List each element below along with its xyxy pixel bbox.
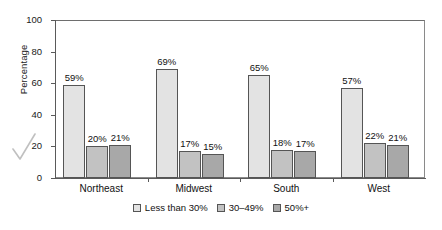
bar-value-label: 65% [242, 63, 276, 73]
bar-value-label: 15% [196, 142, 230, 152]
legend-label: Less than 30% [145, 203, 208, 213]
bar-value-label: 21% [103, 133, 137, 143]
y-axis-tick-label: 40 [0, 110, 42, 120]
chart-legend: Less than 30%30–49%50%+ [0, 203, 442, 213]
bar [179, 151, 201, 178]
bar [109, 145, 131, 178]
bar-value-label: 59% [57, 73, 91, 83]
bar [202, 154, 224, 178]
legend-item: 30–49% [217, 203, 264, 213]
bar [271, 150, 293, 178]
legend-label: 50%+ [285, 203, 310, 213]
bar-value-label: 57% [335, 76, 369, 86]
y-axis-line [55, 20, 56, 179]
y-axis-tick-label: 60 [0, 78, 42, 88]
x-axis-tick-mark [148, 178, 149, 182]
legend-swatch [217, 204, 225, 212]
y-axis-tick-label: 100 [0, 15, 42, 25]
y-axis-title: Percentage [18, 30, 29, 110]
x-axis-category-label: West [333, 183, 426, 194]
legend-item: 50%+ [273, 203, 310, 213]
bar-chart: Percentage 020406080100 59%20%21%69%17%1… [0, 0, 442, 230]
bar [156, 69, 178, 178]
legend-swatch [273, 204, 281, 212]
bar-value-label: 69% [150, 57, 184, 67]
legend-label: 30–49% [229, 203, 264, 213]
x-axis-category-label: Midwest [148, 183, 241, 194]
x-axis-category-label: Northeast [55, 183, 148, 194]
check-mark-icon [11, 132, 37, 162]
bar-value-label: 17% [288, 139, 322, 149]
x-axis-category-label: South [240, 183, 333, 194]
bar [63, 85, 85, 178]
legend-item: Less than 30% [133, 203, 208, 213]
legend-swatch [133, 204, 141, 212]
y-axis-tick-label: 80 [0, 47, 42, 57]
bar [294, 151, 316, 178]
bar-value-label: 21% [381, 133, 415, 143]
y-axis-tick-label: 0 [0, 173, 42, 183]
bar [387, 145, 409, 178]
x-axis-tick-mark [240, 178, 241, 182]
bar [364, 143, 386, 178]
bar [248, 75, 270, 178]
x-axis-tick-mark [333, 178, 334, 182]
bar [86, 146, 108, 178]
